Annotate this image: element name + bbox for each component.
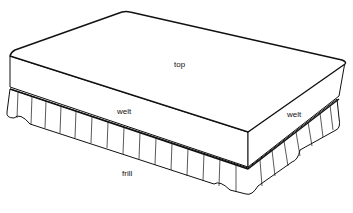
bedcover-diagram: top welt welt frill xyxy=(0,0,353,213)
label-welt-front: welt xyxy=(117,107,131,116)
label-welt-side: welt xyxy=(287,110,301,119)
label-top: top xyxy=(174,60,185,69)
label-frill: frill xyxy=(122,169,132,178)
bedcover-drawing xyxy=(0,0,353,213)
